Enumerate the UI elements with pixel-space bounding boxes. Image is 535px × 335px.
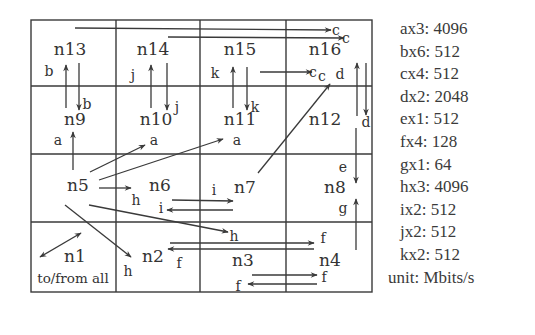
node-n7: n7	[234, 177, 256, 197]
arrow-c-2	[168, 37, 344, 38]
node-n13: n13	[54, 39, 87, 59]
flow-arrows	[40, 28, 366, 284]
flow-label-h: h	[123, 263, 132, 279]
flow-label-c: c	[309, 64, 317, 80]
flow-label-c: c	[332, 22, 340, 38]
flow-label-j: j	[173, 99, 179, 115]
legend-item-a: ax3: 4096	[400, 18, 474, 41]
flow-label-k: k	[251, 99, 260, 115]
flow-label-h: h	[229, 228, 238, 244]
node-n15: n15	[224, 39, 257, 59]
flow-label-b: b	[45, 63, 54, 79]
flow-label-j: j	[129, 67, 135, 83]
legend-item-k: kx2: 512	[400, 244, 474, 267]
node-n16: n16	[309, 39, 342, 59]
node-n1: n1	[64, 246, 86, 266]
node-n6: n6	[149, 175, 171, 195]
node-n14: n14	[137, 39, 170, 59]
flow-label-a: a	[150, 132, 158, 148]
flow-label-d: d	[362, 114, 371, 130]
bandwidth-legend: ax3: 4096 bx6: 512 cx4: 512 dx2: 2048 ex…	[400, 18, 474, 289]
node-n12: n12	[309, 109, 342, 129]
flow-label-c: c	[342, 30, 350, 46]
flow-label-g: g	[339, 200, 348, 216]
flow-label-d: d	[336, 66, 345, 82]
legend-item-j: jx2: 512	[400, 221, 474, 244]
flow-label-a: a	[54, 132, 62, 148]
n1-caption: to/from all	[37, 270, 108, 286]
node-n10: n10	[140, 109, 173, 129]
arrow-c-1	[75, 28, 331, 30]
flow-label-h: h	[131, 192, 140, 208]
flow-label-e: e	[339, 159, 347, 175]
arrow-i-right	[172, 200, 233, 201]
flow-label-b: b	[83, 96, 92, 112]
arrow-a-n11	[99, 139, 223, 180]
flow-label-k: k	[211, 65, 220, 81]
legend-item-i: ix2: 512	[400, 199, 474, 222]
flow-label-f: f	[176, 255, 183, 271]
flow-label-c: c	[318, 68, 326, 84]
legend-item-g: gx1: 64	[400, 154, 474, 177]
flow-label-i: i	[159, 200, 164, 216]
flow-label-f: f	[320, 230, 327, 246]
legend-item-f: fx4: 128	[400, 131, 474, 154]
legend-item-d: dx2: 2048	[400, 86, 474, 109]
node-n9: n9	[64, 109, 86, 129]
legend-unit: unit: Mbits/s	[388, 267, 474, 290]
flow-label-i: i	[212, 182, 217, 198]
legend-item-h: hx3: 4096	[400, 176, 474, 199]
flow-label-f: f	[321, 269, 328, 285]
node-n2: n2	[142, 246, 164, 266]
flow-label-a: a	[233, 132, 241, 148]
legend-item-e: ex1: 512	[400, 108, 474, 131]
node-n5: n5	[67, 175, 89, 195]
node-n4: n4	[319, 250, 341, 270]
legend-item-b: bx6: 512	[400, 41, 474, 64]
legend-item-c: cx4: 512	[400, 63, 474, 86]
node-n3: n3	[232, 250, 254, 270]
node-n8: n8	[324, 177, 346, 197]
